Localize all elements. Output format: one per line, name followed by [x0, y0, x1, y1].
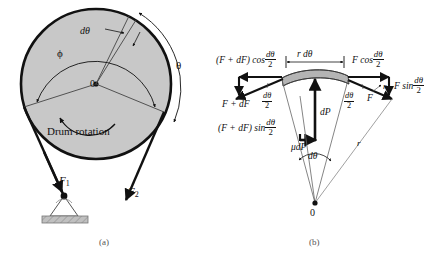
right-cos-fraction-denominator: 2 [373, 60, 384, 69]
label-delta-angle: dθ [308, 152, 317, 162]
left-half-angle-denominator: 2 [262, 102, 272, 111]
ground-support [42, 216, 88, 223]
label-phi: ϕ [57, 48, 63, 59]
right-cos-prefix: F cos [352, 55, 373, 65]
label-left-half-angle: dθ2 [262, 92, 272, 110]
label-arc-length: r dθ [297, 50, 313, 60]
label-right-cos-component: F cosdθ2 [352, 50, 384, 69]
label-right-half-angle: dθ2 [344, 92, 354, 110]
left-resultant-arrow [236, 79, 283, 99]
caption-panel-a: (a) [99, 238, 109, 247]
label-normal-force: dP [320, 108, 331, 118]
label-left-resultant: F + dF [222, 100, 250, 110]
label-left-sin-component: (F + dF) sindθ2 [218, 118, 276, 137]
label-force-f2: F2 [128, 186, 139, 199]
force-f1-symbol: F [59, 174, 66, 186]
label-left-cos-component: (F + dF) cosdθ2 [216, 50, 276, 69]
left-sin-fraction: dθ2 [265, 118, 276, 137]
label-radius-right-upper: r [383, 82, 387, 91]
left-half-angle-fraction: dθ2 [262, 92, 272, 110]
pin-arc [56, 199, 72, 203]
caption-panel-b: (b) [309, 238, 320, 247]
label-drum-rotation: Drum rotation [47, 126, 110, 137]
left-sin-prefix: (F + dF) sin [218, 123, 265, 133]
label-theta: θ [176, 60, 181, 71]
left-cos-prefix: (F + dF) cos [216, 55, 265, 65]
label-center-b: 0 [310, 208, 315, 218]
panel-a-group [21, 9, 181, 223]
right-half-angle-fraction: dθ2 [344, 92, 354, 110]
label-radius-right-lower: r [357, 139, 361, 148]
force-f1-subscript: 1 [66, 179, 70, 188]
left-sin-fraction-denominator: 2 [265, 128, 276, 137]
belt-friction-figure: dθ ϕ θ 0 Drum rotation F1 F2 (a) (F + dF… [0, 0, 437, 260]
right-sin-prefix: F sin [394, 81, 413, 91]
right-half-angle-denominator: 2 [344, 102, 354, 111]
label-force-f1: F1 [59, 175, 70, 188]
right-sin-fraction-denominator: 2 [413, 86, 424, 95]
label-center-a: 0 [90, 79, 95, 89]
label-element-angle-a: dθ [80, 26, 90, 36]
left-cos-fraction-denominator: 2 [265, 60, 276, 69]
label-right-resultant: F [367, 94, 373, 104]
force-f2-subscript: 2 [135, 190, 139, 199]
radius-leader-upper [372, 85, 381, 92]
panel-b-center-point [312, 200, 317, 205]
pin-joint [61, 193, 68, 200]
right-sin-fraction: dθ2 [413, 76, 424, 95]
label-friction-force: μdP [291, 143, 306, 153]
right-cos-fraction: dθ2 [373, 50, 384, 69]
left-cos-fraction: dθ2 [265, 50, 276, 69]
label-right-sin-component: F sindθ2 [394, 76, 424, 95]
force-f2-symbol: F [128, 185, 135, 197]
